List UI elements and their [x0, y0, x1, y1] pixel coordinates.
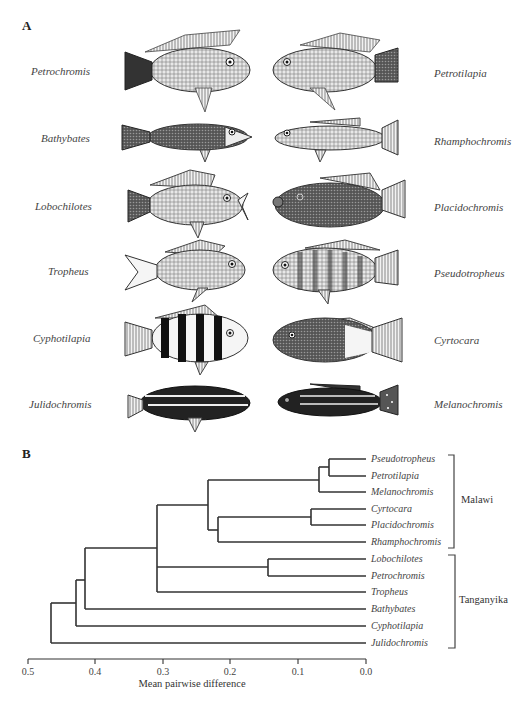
leaf-label: Petrochromis [370, 570, 425, 581]
x-tick-label: 0.3 [157, 666, 170, 677]
x-tick-label: 0.5 [22, 666, 35, 677]
x-tick-label: 0.0 [360, 666, 373, 677]
x-axis-title: Mean pairwise difference [138, 678, 245, 689]
x-axis [28, 659, 366, 664]
x-tick-label: 0.4 [89, 666, 102, 677]
leaf-label: Petrotilapia [370, 470, 419, 481]
leaf-label: Bathybates [371, 603, 416, 614]
leaf-label: Pseudotropheus [370, 453, 435, 464]
group-label-tanganyika: Tanganyika [459, 594, 508, 605]
leaf-label: Cyrtocara [371, 503, 412, 514]
leaf-label: Placidochromis [370, 519, 434, 530]
group-brackets [448, 455, 455, 648]
leaf-label: Julidochromis [371, 637, 428, 648]
x-tick-label: 0.1 [292, 666, 305, 677]
leaf-label: Tropheus [371, 586, 408, 597]
leaf-label: Lobochilotes [370, 553, 423, 564]
x-tick-label: 0.2 [224, 666, 237, 677]
leaf-label: Melanochromis [370, 486, 434, 497]
leaf-label: Rhamphochromis [370, 536, 441, 547]
leaf-label: Cyphotilapia [371, 620, 423, 631]
dendrogram-branches [51, 459, 366, 643]
group-label-malawi: Malawi [461, 494, 493, 505]
dendrogram: Pseudotropheus Petrotilapia Melanochromi… [0, 0, 523, 706]
